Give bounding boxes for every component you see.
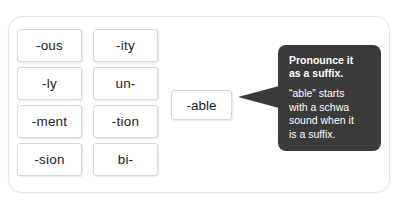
word-tile-ment[interactable]: -ment: [17, 105, 82, 138]
pronunciation-tooltip: Pronounce it as a suffix. “able” starts …: [278, 45, 381, 151]
target-word-tile-able[interactable]: -able: [171, 90, 232, 120]
tooltip-arrow: [238, 86, 279, 108]
word-tile-bi[interactable]: bi-: [93, 143, 158, 176]
word-tile-grid: -ous -ity -ly un- -ment -tion -sion bi-: [17, 29, 167, 181]
word-tile-ity[interactable]: -ity: [93, 29, 158, 62]
tooltip-heading: Pronounce it as a suffix.: [289, 54, 372, 81]
word-tile-sion[interactable]: -sion: [17, 143, 82, 176]
word-tile-row: -sion bi-: [17, 143, 167, 176]
word-tile-tion[interactable]: -tion: [93, 105, 158, 138]
word-tile-row: -ment -tion: [17, 105, 167, 138]
word-tile-row: -ous -ity: [17, 29, 167, 62]
tooltip-body: “able” starts with a schwa sound when it…: [289, 87, 372, 142]
word-tile-un[interactable]: un-: [93, 67, 158, 100]
word-tile-ly[interactable]: -ly: [17, 67, 82, 100]
activity-card: -ous -ity -ly un- -ment -tion -sion bi- …: [8, 16, 390, 193]
word-tile-ous[interactable]: -ous: [17, 29, 82, 62]
word-tile-row: -ly un-: [17, 67, 167, 100]
